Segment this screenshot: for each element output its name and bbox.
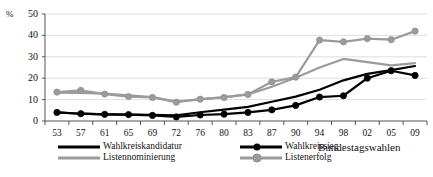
legend-swatch-marker-black [240, 142, 282, 152]
data-point [412, 72, 418, 78]
data-point [102, 91, 108, 97]
legend-label: Listenerfolg [285, 152, 331, 163]
data-point [364, 36, 370, 42]
data-point [78, 87, 84, 93]
data-point [125, 94, 131, 100]
data-point [173, 99, 179, 105]
legend-item-wahlkreiskandidatur: Wahlkreiskandidatur [58, 141, 240, 152]
x-axis-title: Bundestagswahlen [318, 141, 400, 153]
legend-item-listenerfolg: Listenerfolg [240, 152, 390, 163]
data-point [149, 94, 155, 100]
legend-swatch-marker-gray [240, 153, 282, 163]
data-point [245, 91, 251, 97]
data-point [388, 37, 394, 43]
legend-swatch-line-black [58, 142, 100, 152]
data-point [102, 111, 108, 117]
data-point [125, 111, 131, 117]
data-point [173, 114, 179, 120]
series-line-listenerfolg [57, 31, 415, 102]
data-point [245, 109, 251, 115]
data-point [221, 94, 227, 100]
data-point [197, 96, 203, 102]
data-point [197, 112, 203, 118]
data-point [78, 111, 84, 117]
series-line-wahlkreiskandidatur [57, 66, 415, 115]
data-point [340, 93, 346, 99]
legend-item-listennominierung: Listennominierung [58, 152, 240, 163]
data-point [54, 109, 60, 115]
data-point [293, 102, 299, 108]
data-point [412, 28, 418, 34]
data-point [149, 112, 155, 118]
data-point [221, 111, 227, 117]
legend-label: Listennominierung [103, 152, 175, 163]
data-point [388, 68, 394, 74]
data-point [316, 37, 322, 43]
data-point [316, 94, 322, 100]
legend-swatch-line-gray [58, 153, 100, 163]
data-point [269, 107, 275, 113]
legend-label: Wahlkreiskandidatur [103, 141, 182, 152]
data-point [364, 75, 370, 81]
data-point [293, 74, 299, 80]
chart-figure: % 01020304050 53576165697276808387909498… [0, 0, 433, 177]
data-point [54, 89, 60, 95]
data-point [340, 39, 346, 45]
data-point [269, 79, 275, 85]
